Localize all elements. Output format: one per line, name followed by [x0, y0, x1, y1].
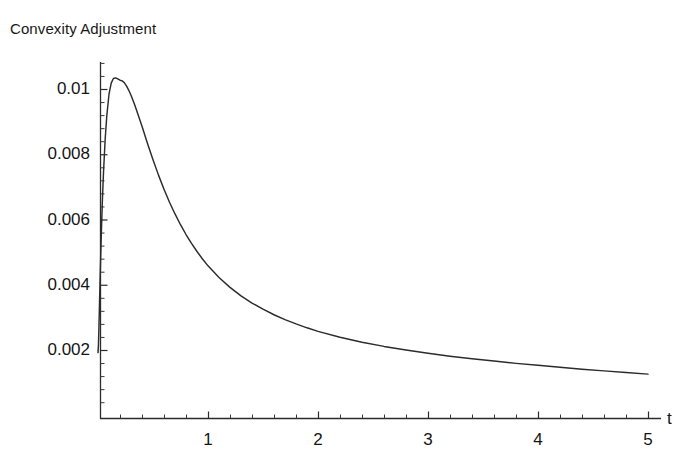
x-axis-tick-label: 1 — [203, 430, 212, 450]
y-axis-tick-label: 0.002 — [12, 340, 90, 360]
x-axis-tick-label: 3 — [423, 430, 432, 450]
y-axis-tick-label: 0.004 — [12, 275, 90, 295]
data-series-line — [98, 78, 648, 374]
y-axis-tick-label: 0.006 — [12, 210, 90, 230]
y-axis-tick-label: 0.01 — [12, 79, 90, 99]
x-axis-tick-label: 2 — [313, 430, 322, 450]
y-axis-tick-label: 0.008 — [12, 144, 90, 164]
data-series-group — [98, 78, 648, 374]
x-axis-tick-label: 4 — [533, 430, 542, 450]
x-axis-label: t — [667, 409, 672, 429]
plot-area — [0, 0, 690, 466]
axes — [100, 62, 661, 419]
x-axis-tick-label: 5 — [643, 430, 652, 450]
chart-figure: Convexity Adjustment 0.0020.0040.0060.00… — [0, 0, 690, 466]
